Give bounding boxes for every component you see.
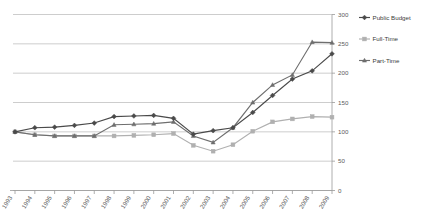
x-axis-ticks-group (15, 191, 332, 195)
legend-item-label: Full-Time (373, 35, 399, 42)
legend-item[interactable]: Full-Time (359, 35, 399, 42)
x-axis-label: 1994 (20, 194, 34, 210)
data-point (251, 129, 255, 133)
data-point (152, 133, 156, 137)
x-axis-label: 1997 (79, 194, 93, 210)
data-point (92, 121, 97, 126)
x-axis-label: 1995 (40, 194, 54, 210)
x-axis-label: 1998 (99, 194, 113, 210)
data-point (330, 115, 334, 119)
data-point (132, 114, 137, 119)
data-point (211, 149, 215, 153)
x-axis-label: 1996 (60, 194, 74, 210)
legend-item-label: Public Budget (373, 14, 411, 21)
data-point (172, 132, 176, 136)
y-axis-label: 50 (338, 157, 345, 164)
data-point (52, 125, 57, 130)
series-line (15, 42, 332, 142)
x-axis-label: 2008 (297, 194, 311, 210)
x-axis-label: 1999 (119, 194, 133, 210)
x-axis-label: 2001 (159, 194, 173, 210)
legend-item-label: Part-Time (373, 57, 400, 64)
x-axis-label: 2006 (258, 194, 272, 210)
x-axis-label: 2002 (178, 194, 192, 210)
legend-item[interactable]: Public Budget (359, 14, 411, 21)
data-point (290, 117, 294, 121)
data-point (231, 143, 235, 147)
data-series-group (13, 40, 335, 153)
y-axis-label: 100 (338, 128, 349, 135)
data-point (112, 114, 117, 119)
x-axis-label: 2003 (198, 194, 212, 210)
x-axis-label: 2007 (277, 194, 291, 210)
legend-item[interactable]: Part-Time (359, 57, 400, 64)
x-axis-label: 1993 (0, 194, 14, 210)
x-axis-label: 2005 (238, 194, 252, 210)
y-axis-label: 150 (338, 99, 349, 106)
y-axis-label: 250 (338, 40, 349, 47)
legend-swatch-marker (362, 15, 367, 20)
data-point (191, 143, 195, 147)
data-point (132, 133, 136, 137)
data-point (151, 113, 156, 118)
data-point (112, 134, 116, 138)
data-point (271, 120, 275, 124)
data-point (32, 125, 37, 130)
data-point (211, 128, 216, 133)
series-part-time (13, 40, 334, 144)
y-axis-label: 0 (338, 187, 342, 194)
data-point (72, 123, 77, 128)
y-axis-labels-group: 050100150200250300 (338, 11, 349, 194)
y-axis-label: 300 (338, 11, 349, 18)
gridlines-group (13, 15, 332, 191)
x-axis-labels-group: 1993199419951996199719981999200020012002… (0, 194, 331, 210)
legend-swatch-marker (363, 37, 367, 41)
line-chart: 050100150200250300 199319941995199619971… (0, 0, 425, 224)
y-axis-label: 200 (338, 69, 349, 76)
chart-canvas: 050100150200250300 199319941995199619971… (0, 0, 425, 224)
x-axis-label: 2009 (317, 194, 331, 210)
legend: Public BudgetFull-TimePart-Time (359, 14, 411, 64)
series-public-budget (13, 51, 335, 136)
data-point (310, 115, 314, 119)
x-axis-label: 2000 (139, 194, 153, 210)
x-axis-label: 2004 (218, 194, 232, 210)
